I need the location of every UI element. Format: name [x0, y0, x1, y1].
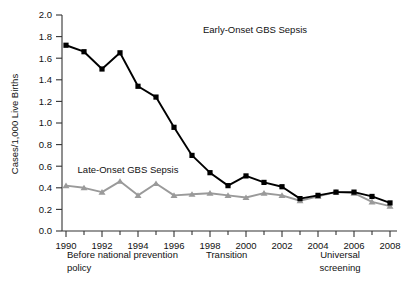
- y-tick-label: 2.0: [39, 9, 52, 20]
- y-axis-title: Cases/1,000 Live Births: [9, 74, 20, 175]
- x-tick-label: 2002: [271, 240, 292, 251]
- data-point-marker: [81, 49, 86, 54]
- period-before-policy-line1: Before national prevention: [67, 249, 178, 260]
- y-tick-label: 1.0: [39, 117, 52, 128]
- y-tick-label: 0.6: [39, 161, 52, 172]
- data-point-marker: [261, 180, 266, 185]
- data-point-marker: [171, 125, 176, 130]
- y-tick-label: 0.4: [39, 182, 52, 193]
- data-point-marker: [99, 66, 104, 71]
- data-point-marker: [351, 190, 356, 195]
- chart-container: Cases/1,000 Live Births 0.00.20.40.60.81…: [0, 0, 416, 296]
- data-point-marker: [315, 193, 320, 198]
- data-point-marker: [333, 190, 338, 195]
- series-late-onset-gbs-sepsis: [63, 178, 394, 208]
- x-axis-ticks: 1990199219941996199820002002200420062008: [55, 231, 400, 251]
- data-point-marker: [135, 84, 140, 89]
- x-tick-label: 2008: [379, 240, 400, 251]
- y-tick-label: 0.8: [39, 139, 52, 150]
- period-before-policy-line2: policy: [67, 262, 92, 273]
- data-point-marker: [369, 194, 374, 199]
- data-point-marker: [387, 200, 392, 205]
- y-tick-label: 1.6: [39, 53, 52, 64]
- data-point-marker: [153, 94, 158, 99]
- data-point-marker: [153, 180, 160, 186]
- axes: [62, 15, 397, 231]
- data-point-marker: [225, 183, 230, 188]
- y-axis-ticks: 0.00.20.40.60.81.01.21.41.61.82.0: [39, 9, 62, 236]
- series-early-onset-gbs-sepsis: [63, 43, 392, 206]
- period-transition-line1: Transition: [206, 249, 247, 260]
- data-point-marker: [117, 50, 122, 55]
- y-tick-label: 1.8: [39, 31, 52, 42]
- data-point-marker: [243, 173, 248, 178]
- y-tick-label: 0.2: [39, 204, 52, 215]
- data-point-marker: [117, 178, 124, 184]
- period-universal-screening-line1: Universal: [320, 249, 360, 260]
- y-tick-label: 0.0: [39, 225, 52, 236]
- series-line: [66, 45, 390, 203]
- line-chart: Cases/1,000 Live Births 0.00.20.40.60.81…: [0, 0, 416, 296]
- y-tick-label: 1.4: [39, 74, 52, 85]
- data-point-marker: [63, 43, 68, 48]
- data-point-marker: [207, 170, 212, 175]
- data-point-marker: [297, 196, 302, 201]
- data-point-marker: [189, 153, 194, 158]
- y-tick-label: 1.2: [39, 96, 52, 107]
- data-point-marker: [279, 184, 284, 189]
- early-onset-label: Early-Onset GBS Sepsis: [203, 24, 307, 35]
- late-onset-label: Late-Onset GBS Sepsis: [78, 164, 179, 175]
- period-universal-screening-line2: screening: [319, 262, 360, 273]
